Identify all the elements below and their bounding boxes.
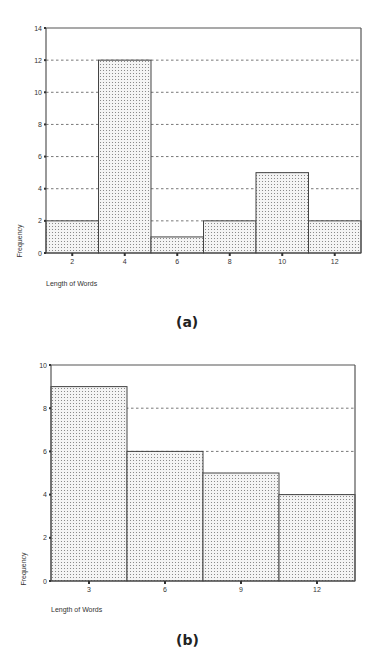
x-tick-label: 10	[278, 258, 286, 265]
x-tick	[71, 253, 73, 256]
y-tick-label: 0	[43, 578, 47, 585]
y-tick-label: 0	[38, 250, 42, 257]
x-tick	[229, 253, 231, 256]
y-tick	[44, 188, 46, 190]
y-tick	[49, 450, 51, 452]
y-tick	[44, 59, 46, 61]
histogram-bar	[256, 173, 309, 253]
y-tick-label: 4	[43, 491, 47, 498]
x-axis-title: Length of Words	[46, 280, 98, 288]
y-tick	[49, 537, 51, 539]
y-tick	[49, 580, 51, 582]
histogram-bar	[151, 237, 204, 253]
y-axis-title: Frequency	[20, 552, 28, 586]
y-tick	[49, 407, 51, 409]
x-tick	[164, 581, 166, 584]
x-tick-label: 3	[87, 586, 91, 593]
x-tick	[334, 253, 336, 256]
x-tick-label: 2	[70, 258, 74, 265]
histogram-bar	[203, 473, 279, 581]
y-tick-label: 10	[34, 89, 42, 96]
y-tick	[44, 27, 46, 29]
y-tick-label: 10	[39, 362, 47, 369]
histogram-bar	[279, 495, 355, 581]
x-tick-label: 12	[313, 586, 321, 593]
histogram-bar	[127, 451, 203, 581]
x-axis-title: Length of Words	[51, 606, 103, 614]
x-tick	[124, 253, 126, 256]
x-tick	[88, 581, 90, 584]
histogram-bar	[99, 60, 152, 253]
y-tick-label: 12	[34, 57, 42, 64]
y-tick-label: 6	[38, 153, 42, 160]
x-tick	[316, 581, 318, 584]
x-tick	[240, 581, 242, 584]
x-tick-label: 6	[175, 258, 179, 265]
y-tick	[49, 364, 51, 366]
y-tick	[44, 252, 46, 254]
x-tick-label: 8	[228, 258, 232, 265]
caption-a: (a)	[176, 314, 198, 330]
x-tick-label: 9	[239, 586, 243, 593]
caption-b: (b)	[176, 632, 199, 648]
x-tick-label: 4	[123, 258, 127, 265]
histogram-bar	[46, 221, 99, 253]
y-tick-label: 8	[43, 405, 47, 412]
x-tick	[281, 253, 283, 256]
y-tick	[44, 123, 46, 125]
y-tick	[44, 156, 46, 158]
histogram-bar	[204, 221, 257, 253]
y-tick-label: 8	[38, 121, 42, 128]
y-axis-title: Frequency	[16, 224, 24, 258]
histogram-bar	[51, 387, 127, 581]
y-tick	[49, 494, 51, 496]
histogram-bar	[309, 221, 362, 253]
y-tick-label: 14	[34, 25, 42, 32]
x-tick-label: 6	[163, 586, 167, 593]
y-tick-label: 2	[38, 217, 42, 224]
chart-b-word-length-histogram: 024681036912FrequencyLength of Words	[20, 362, 355, 615]
y-tick-label: 2	[43, 534, 47, 541]
y-tick-label: 4	[38, 185, 42, 192]
y-tick	[44, 220, 46, 222]
x-tick	[176, 253, 178, 256]
chart-a-word-length-histogram: 0246810121424681012FrequencyLength of Wo…	[16, 25, 361, 289]
y-tick	[44, 91, 46, 93]
x-tick-label: 12	[331, 258, 339, 265]
y-tick-label: 6	[43, 448, 47, 455]
